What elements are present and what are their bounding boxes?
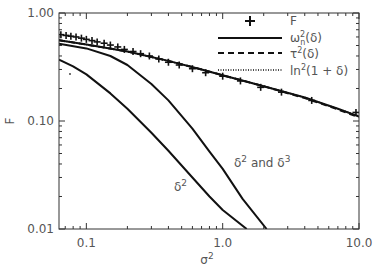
- y-axis-title: F: [3, 117, 17, 124]
- y-tick-label: 0.10: [27, 114, 54, 128]
- stray-dot: [69, 73, 71, 75]
- y-tick-label: 1.00: [27, 6, 54, 20]
- x-tick-label: 0.1: [77, 236, 96, 250]
- legend-label-f: F: [290, 14, 297, 28]
- legend-label-ln: ln2(1 + δ): [290, 63, 348, 78]
- x-tick-label: 1.0: [213, 236, 232, 250]
- y-tick-label: 0.01: [27, 222, 54, 236]
- x-tick-label: 10.0: [346, 236, 373, 250]
- legend-label-omega: ω2n(δ): [290, 30, 322, 47]
- chart: 0.11.010.00.010.101.00 σ2 F δ2 δ2 and δ3…: [0, 0, 379, 270]
- legend-label-tau: τ2(δ): [290, 46, 319, 61]
